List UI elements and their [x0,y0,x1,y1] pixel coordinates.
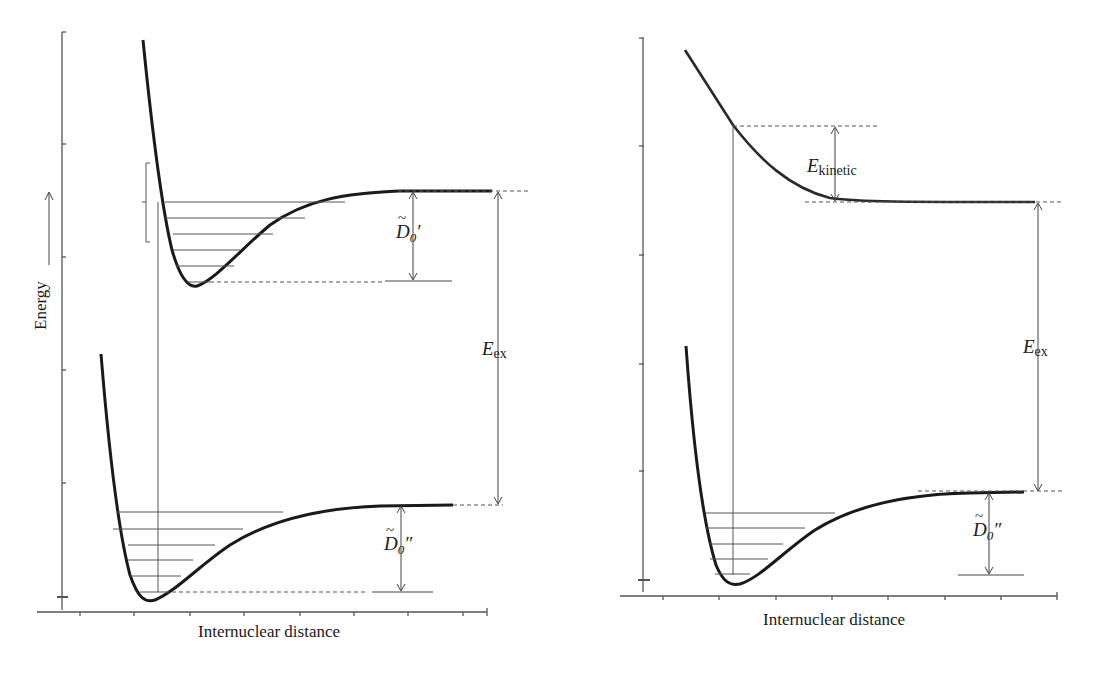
energy-direction-arrow-icon [45,192,53,265]
right-y-axis [638,38,650,592]
left-x-axis [37,608,487,616]
right-lower-dissociation-energy-label: ~D0″ [973,519,1001,544]
lower-dissociation-energy-label: ~D0″ [384,533,412,558]
upper-state-potential-curve [143,40,492,286]
right-x-axis [620,592,1057,600]
y-axis-label: Energy [31,281,51,330]
right-x-axis-label: Internuclear distance [763,610,905,630]
left-x-axis-label: Internuclear distance [198,622,340,642]
kinetic-energy-label: Ekinetic [807,155,857,179]
left-y-axis [57,32,68,610]
right-panel [620,38,1062,600]
upper-dissociation-energy-label: ~D0′ [396,221,420,246]
upper-bracket [142,163,150,242]
right-lower-state-curve [686,346,1024,584]
right-excitation-energy-label: Eex [1023,336,1048,360]
left-excitation-energy-label: Eex [482,338,507,362]
lower-vibrational-levels [113,512,283,592]
left-panel [37,32,530,616]
potential-energy-diagrams [0,0,1093,674]
upper-vibrational-levels [165,202,345,282]
lower-state-potential-curve [101,354,453,601]
